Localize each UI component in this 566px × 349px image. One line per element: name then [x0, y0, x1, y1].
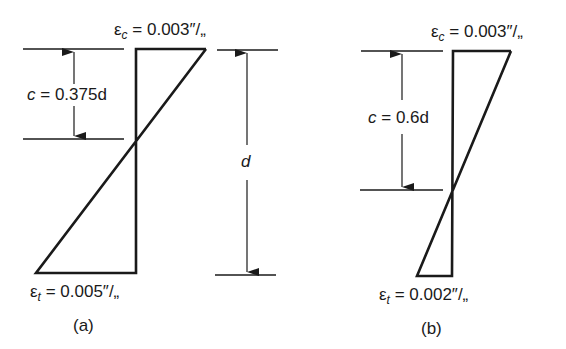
caption-a: (a): [73, 317, 94, 334]
compression-strain-triangle: [36, 49, 206, 273]
diagram-a: [23, 49, 278, 275]
top-strain-label-a: εc = 0.003″/„: [114, 21, 206, 38]
caption-b: (b): [421, 320, 442, 337]
diagram-b: [360, 51, 511, 276]
neutral-axis-label-b: c = 0.6d: [368, 109, 429, 126]
neutral-axis-label-a: c = 0.375d: [27, 86, 107, 103]
bottom-strain-label-a: εt = 0.005″/„: [30, 283, 119, 300]
top-strain-label-b: εc = 0.003″/„: [431, 23, 523, 40]
bottom-strain-label-b: εt = 0.002″/„: [379, 286, 468, 303]
compression-strain-triangle: [417, 51, 511, 276]
depth-label-d: d: [241, 153, 250, 170]
